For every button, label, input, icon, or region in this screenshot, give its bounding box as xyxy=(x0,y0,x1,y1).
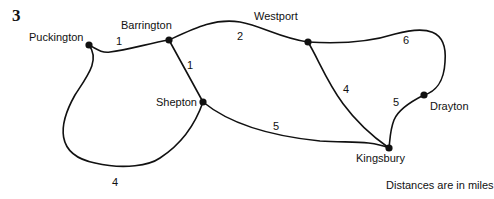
weight-puckington-shepton: 4 xyxy=(112,176,118,188)
node-shepton xyxy=(199,98,206,105)
weight-barrington-shepton: 1 xyxy=(187,59,193,71)
weight-drayton-kingsbury: 5 xyxy=(393,96,399,108)
label-kingsbury: Kingsbury xyxy=(356,152,405,164)
node-drayton xyxy=(420,91,427,98)
label-shepton: Shepton xyxy=(156,96,197,108)
edge-westport-drayton xyxy=(308,30,445,95)
edge-westport-kingsbury xyxy=(308,42,389,148)
node-puckington xyxy=(85,41,92,48)
node-westport xyxy=(304,38,311,45)
weight-puckington-barrington: 1 xyxy=(116,35,122,47)
weight-shepton-kingsbury: 5 xyxy=(273,120,279,132)
node-kingsbury xyxy=(385,144,392,151)
label-westport: Westport xyxy=(254,10,298,22)
label-drayton: Drayton xyxy=(430,100,469,112)
units-note: Distances are in miles xyxy=(386,179,494,191)
weight-westport-drayton: 6 xyxy=(403,34,409,46)
edge-puckington-barrington xyxy=(89,40,169,52)
label-puckington: Puckington xyxy=(29,31,83,43)
label-barrington: Barrington xyxy=(121,19,172,31)
node-barrington xyxy=(165,36,172,43)
edge-barrington-shepton xyxy=(169,40,203,102)
weight-westport-kingsbury: 4 xyxy=(343,83,349,95)
weight-barrington-westport: 2 xyxy=(237,30,243,42)
